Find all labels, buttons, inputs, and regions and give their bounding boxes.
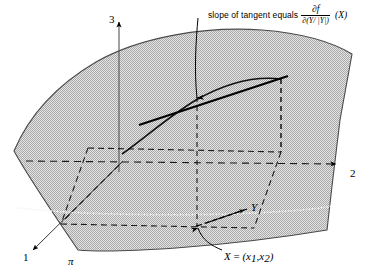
slope-annotation-text: slope of tangent equals	[208, 10, 298, 20]
surface-sheet	[14, 29, 352, 251]
axis-2-label: 2	[350, 168, 356, 179]
point-X-label: X = (x1,x2)	[224, 247, 273, 264]
axis-1-label: 1	[23, 252, 29, 263]
point-X-comma: ,x	[257, 250, 265, 262]
point-X-symbol: X	[224, 250, 231, 262]
diagram-canvas	[0, 0, 373, 272]
surface-outline	[14, 29, 352, 251]
partial-derivative-fraction: ∂f ∂(Y/ |Y|)	[301, 4, 330, 25]
point-X-close: )	[270, 250, 274, 262]
fraction-denominator: ∂(Y/ |Y|)	[301, 16, 330, 26]
point-X-marker	[196, 225, 198, 227]
point-X-open: (x	[242, 250, 251, 262]
figure-directional-derivative: 3 2 1 π Y slope of tangent equals ∂f ∂(Y…	[0, 0, 373, 272]
slope-annotation: slope of tangent equals ∂f ∂(Y/ |Y|) (X)	[208, 4, 347, 25]
surface-label-pi: π	[68, 256, 74, 267]
fraction-argument: (X)	[333, 10, 347, 20]
axis-3-label: 3	[109, 14, 115, 25]
vector-Y-label: Y	[251, 202, 257, 213]
fraction-numerator: ∂f	[301, 4, 330, 15]
